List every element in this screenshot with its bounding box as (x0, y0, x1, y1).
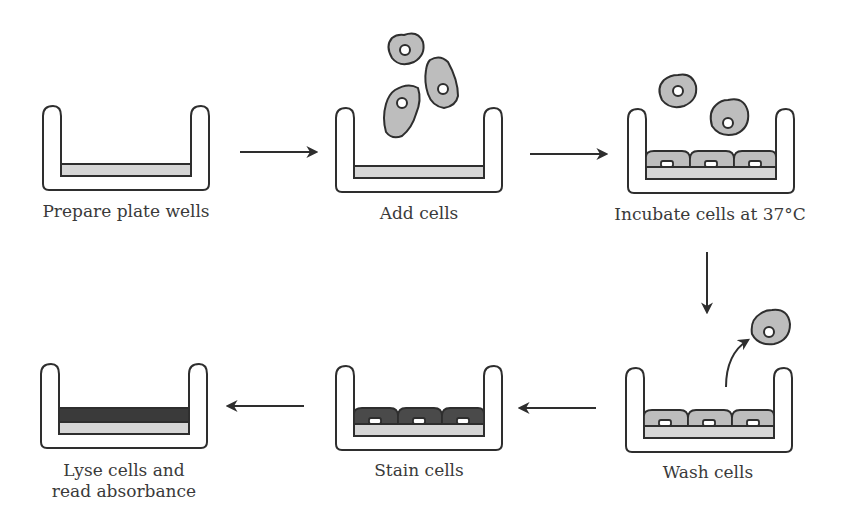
step-6-label-line1: Lyse cells and (63, 460, 184, 481)
cell-icon (425, 57, 458, 108)
floating-cells (659, 74, 748, 135)
step-4-label: Wash cells (663, 462, 753, 483)
coating-layer (644, 426, 774, 438)
coating-layer (646, 167, 776, 179)
step-6-label-line2: read absorbance (52, 481, 196, 502)
stained-cells (354, 408, 484, 424)
dye-layer (59, 408, 189, 422)
step-2-well (336, 108, 502, 192)
curved-arrow-icon (726, 340, 748, 387)
step-2-label: Add cells (380, 203, 459, 224)
coating-layer (61, 164, 191, 176)
adhered-cells (644, 410, 774, 426)
step-1-well (43, 106, 209, 190)
washed-away-cell (752, 310, 790, 345)
cell-icon (384, 85, 420, 137)
step-1-label: Prepare plate wells (42, 201, 209, 222)
cell-icon (711, 99, 749, 135)
step-5-label: Stain cells (374, 460, 464, 481)
step-3-label: Incubate cells at 37°C (614, 204, 806, 225)
coating-layer (354, 166, 484, 178)
step-4-well (626, 368, 792, 452)
adhered-cells (646, 151, 776, 167)
workflow-diagram (0, 0, 841, 518)
step-5-well (336, 366, 502, 450)
floating-cells (384, 34, 458, 138)
coating-layer (59, 422, 189, 434)
coating-layer (354, 424, 484, 436)
step-6-well (41, 364, 207, 448)
